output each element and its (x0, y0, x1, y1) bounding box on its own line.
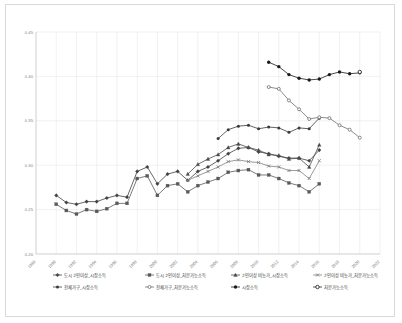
legend-item[interactable]: 도시 2인이상_시장소득 (53, 272, 106, 279)
chart-legend: 도시 2인이상_시장소득도시 2인이상_처분가능소득2인이상 비농가_시장소득2… (53, 272, 378, 291)
data-point (75, 213, 78, 216)
data-point (328, 117, 331, 120)
data-point (105, 196, 109, 200)
data-point (234, 285, 237, 288)
legend-item[interactable]: 처분가능소득 (313, 284, 348, 291)
data-point (186, 190, 189, 193)
data-point (217, 137, 220, 140)
series-layer (54, 60, 361, 215)
data-point (277, 126, 280, 129)
data-point (287, 181, 290, 184)
chart-svg: 0.200.250.300.350.400.45 198819901992199… (14, 13, 388, 308)
data-point (146, 174, 149, 177)
data-point (126, 202, 129, 205)
y-tick-label: 0.20 (25, 252, 34, 257)
series-0 (54, 146, 321, 206)
data-point (338, 124, 341, 127)
y-axis-ticks: 0.200.250.300.350.400.45 (25, 30, 34, 257)
series-6 (267, 60, 361, 81)
data-point (298, 108, 301, 111)
legend-label: 전체가구_처분가능소득 (156, 284, 198, 291)
data-point (308, 190, 311, 193)
chart-frame: 0.200.250.300.350.400.45 198819901992199… (5, 4, 395, 317)
legend-label: 전체가구_시장소득 (64, 284, 98, 291)
x-tick-label: 2008 (229, 259, 240, 270)
series-7 (358, 70, 361, 73)
data-point (267, 173, 270, 176)
data-point (267, 86, 270, 89)
x-tick-label: 2012 (269, 259, 280, 270)
data-point (166, 184, 169, 187)
x-tick-label: 2020 (350, 259, 361, 270)
legend-item[interactable]: 2인이상 비농가_시장소득 (231, 272, 288, 279)
data-point (227, 171, 230, 174)
legend-item[interactable]: 시장소득 (231, 284, 258, 291)
data-point (55, 203, 58, 206)
data-point (308, 127, 311, 130)
data-point (308, 118, 311, 121)
data-point (135, 170, 139, 174)
data-point (247, 168, 250, 171)
x-tick-label: 1990 (47, 259, 58, 270)
data-point (237, 147, 241, 151)
x-tick-label: 1994 (87, 259, 98, 270)
data-point (358, 136, 361, 139)
data-point (348, 72, 351, 75)
data-point (207, 181, 210, 184)
data-point (298, 126, 301, 129)
legend-label: 처분가능소득 (324, 284, 348, 291)
data-point (75, 202, 79, 206)
y-tick-label: 0.45 (25, 30, 34, 35)
series-3 (186, 158, 321, 181)
x-axis-ticks: 1988199019921994199619982000200220042006… (27, 259, 382, 270)
data-point (318, 77, 321, 80)
x-tick-label: 1998 (128, 259, 139, 270)
data-point (207, 170, 210, 173)
data-point (216, 153, 220, 156)
x-tick-label: 2000 (148, 259, 159, 270)
data-point (287, 131, 290, 134)
y-tick-label: 0.35 (25, 118, 34, 123)
x-tick-label: 1992 (67, 259, 78, 270)
data-point (176, 182, 179, 185)
legend-label: 2인이상 비농가_처분가능소득 (324, 272, 378, 279)
data-point (277, 177, 280, 180)
legend-item[interactable]: 도시 2인이상_처분가능소득 (145, 272, 206, 279)
x-tick-label: 2002 (168, 259, 179, 270)
data-point (56, 286, 59, 289)
data-point (318, 116, 321, 119)
series-5 (267, 86, 361, 140)
data-point (338, 70, 341, 73)
x-tick-label: 2006 (209, 259, 220, 270)
legend-item[interactable]: 2인이상 비농가_처분가능소득 (313, 272, 378, 279)
data-point (287, 99, 290, 102)
y-tick-label: 0.25 (25, 207, 34, 212)
legend-label: 시장소득 (242, 284, 258, 291)
grid-layer (36, 32, 380, 254)
data-point (358, 70, 361, 73)
y-tick-label: 0.40 (25, 74, 34, 79)
legend-item[interactable]: 전체가구_처분가능소득 (145, 284, 198, 291)
legend-label: 도시 2인이상_처분가능소득 (156, 272, 206, 279)
data-point (318, 182, 321, 185)
data-point (156, 194, 159, 197)
legend-label: 2인이상 비농가_시장소득 (242, 272, 288, 279)
x-tick-label: 2004 (188, 259, 199, 270)
data-point (297, 76, 300, 79)
data-point (125, 195, 129, 199)
data-point (206, 165, 210, 169)
legend-item[interactable]: 전체가구_시장소득 (53, 284, 98, 291)
x-tick-label: 2018 (330, 259, 341, 270)
data-point (65, 209, 68, 212)
data-point (227, 128, 230, 131)
data-point (328, 73, 331, 76)
data-point (237, 169, 240, 172)
data-point (148, 274, 151, 277)
data-point (115, 194, 119, 198)
data-point (308, 177, 311, 180)
data-point (277, 65, 280, 68)
data-point (217, 177, 220, 180)
data-point (196, 184, 199, 187)
data-point (105, 207, 108, 210)
data-point (257, 173, 260, 176)
